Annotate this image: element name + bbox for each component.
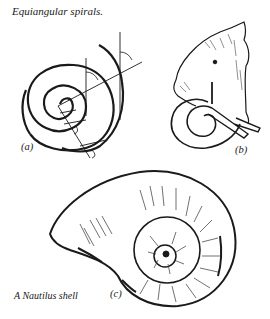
tangent-short-1 (60, 110, 76, 113)
spiral-tusk (171, 99, 240, 148)
elephant-drawing (171, 22, 260, 148)
panel-label-a: (a) (21, 141, 33, 152)
nautilus-drawing (50, 171, 235, 306)
nautilus-caption: A Nautilus shell (14, 290, 78, 301)
angle-arc-4 (92, 150, 95, 158)
shell-center (163, 251, 169, 257)
elephant-ear-texture (180, 34, 242, 92)
angle-arc-2 (120, 52, 132, 60)
shell-outline (50, 171, 235, 306)
panel-label-c: (c) (110, 288, 122, 299)
radial-line (58, 62, 142, 106)
elephant-eye (213, 60, 217, 64)
spiral-diagram (23, 32, 142, 158)
spiral-curve (28, 65, 114, 151)
panel-label-b: (b) (235, 144, 247, 155)
illustration-canvas (0, 0, 270, 319)
shell-inner-whorl (134, 217, 200, 283)
